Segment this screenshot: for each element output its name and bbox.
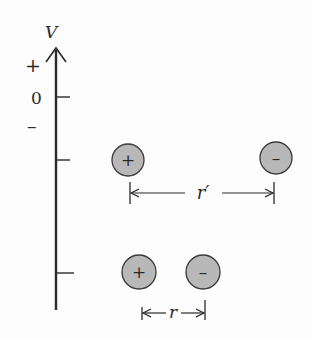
positive-charge-far: +	[112, 144, 144, 176]
near-charge-pair: + – r	[122, 255, 220, 322]
axis-label-v: V	[45, 22, 59, 42]
axis-label-minus: –	[27, 115, 37, 137]
separation-r: r	[142, 300, 205, 322]
separation-label-r: r	[169, 302, 178, 322]
plus-sign-icon: +	[121, 150, 135, 170]
axis-label-zero: 0	[31, 88, 42, 108]
far-charge-pair: + – r′	[112, 142, 292, 204]
diagram-svg: V + 0 – + – r′	[0, 0, 311, 340]
negative-charge-far: –	[260, 142, 292, 174]
plus-sign-icon: +	[132, 262, 146, 282]
negative-charge-near: –	[186, 255, 220, 289]
minus-sign-icon: –	[199, 262, 208, 282]
potential-energy-diagram: V + 0 – + – r′	[0, 0, 311, 340]
axis-label-plus: +	[25, 54, 41, 76]
positive-charge-near: +	[122, 255, 156, 289]
minus-sign-icon: –	[272, 148, 281, 168]
separation-r-prime: r′	[130, 182, 274, 204]
separation-label-r-prime: r′	[197, 182, 210, 203]
potential-axis: V + 0 –	[25, 22, 74, 310]
